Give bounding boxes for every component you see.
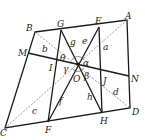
seg-label-j: J (101, 76, 108, 86)
label-g: G (57, 19, 64, 29)
angle-label-theta: θ (60, 53, 66, 63)
label-n: N (130, 74, 140, 84)
label-b: B (25, 23, 33, 33)
label-o: O (73, 74, 81, 84)
seg-label-g: g (70, 37, 76, 47)
angle-label-beta: β (83, 71, 89, 81)
angle-label-gamma: γ (63, 64, 69, 74)
label-f: F (44, 125, 52, 135)
label-m: M (17, 48, 28, 58)
seg-label-h: h (87, 92, 93, 102)
label-e: E (94, 16, 102, 26)
seg-label-c: c (32, 106, 37, 116)
label-d: D (131, 107, 139, 117)
seg-label-i: I (48, 63, 53, 73)
seg-label-d: d (113, 87, 119, 97)
angle-label-alpha: α (83, 58, 89, 68)
label-a: A (124, 11, 132, 21)
seg-label-a: a (103, 42, 108, 52)
label-h: H (99, 116, 108, 126)
label-c: C (0, 128, 7, 138)
seg-label-b: b (42, 44, 48, 54)
seg-label-f: f (58, 96, 64, 106)
geometry-diagram: B G E A M N D H F C O a b c d e f g h I … (0, 0, 145, 140)
seg-label-e: e (82, 36, 87, 46)
angle-arc-bottom (72, 68, 84, 71)
point-o (76, 62, 79, 65)
